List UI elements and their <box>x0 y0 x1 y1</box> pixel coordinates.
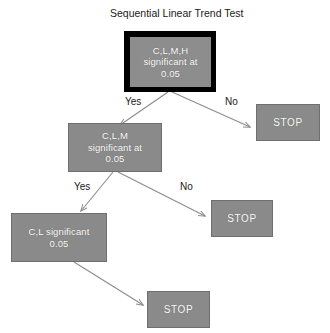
branch-label-no-1: No <box>225 96 238 107</box>
branch-label-yes-2: Yes <box>74 181 90 192</box>
branch-label-yes-1: Yes <box>125 96 141 107</box>
node-label: C,L,M,H significant at 0.05 <box>140 45 200 80</box>
node-stop-bottom[interactable]: STOP <box>147 291 210 328</box>
node-label: C,L significant 0.05 <box>26 226 93 249</box>
branch-label-no-2: No <box>180 181 193 192</box>
edge-cl-to-stop <box>74 262 143 305</box>
node-stop-top-right[interactable]: STOP <box>256 104 320 141</box>
edge-root-no <box>172 92 250 127</box>
node-label: STOP <box>270 117 305 129</box>
node-label: STOP <box>224 213 259 225</box>
page-title: Sequential Linear Trend Test <box>110 7 243 19</box>
node-clm-significant[interactable]: C,L,M significant at 0.05 <box>68 123 162 172</box>
flowchart-canvas: Sequential Linear Trend Test C,L,M,H sig… <box>0 0 330 333</box>
node-label: C,L,M significant at 0.05 <box>85 130 145 165</box>
node-label: STOP <box>161 304 196 316</box>
node-cl-significant[interactable]: C,L significant 0.05 <box>11 213 107 262</box>
edge-clm-no <box>118 172 205 216</box>
node-stop-middle[interactable]: STOP <box>211 200 273 237</box>
node-clmh-significant[interactable]: C,L,M,H significant at 0.05 <box>124 31 216 92</box>
